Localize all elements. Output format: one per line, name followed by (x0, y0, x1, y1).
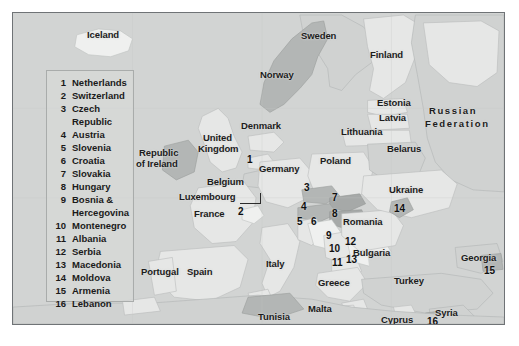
map-number-marker-14: 14 (394, 204, 405, 214)
map-number-marker-6: 6 (311, 217, 317, 227)
legend-list: 1Netherlands2Switzerland3CzechRepublic4A… (47, 76, 133, 310)
map-label-italy: Italy (266, 259, 285, 270)
map-number-marker-4: 4 (301, 202, 307, 212)
map-label-greece: Greece (318, 278, 350, 289)
legend-item: 14Moldova (47, 271, 133, 284)
map-number-marker-1: 1 (247, 155, 253, 165)
map-label-georgia: Georgia (461, 253, 496, 264)
legend-item-continuation: Hercegovina (47, 206, 133, 219)
map-label-estonia: Estonia (377, 98, 411, 109)
legend-item: 3Czech (47, 102, 133, 115)
legend-item-label: Slovakia (66, 167, 111, 180)
map-label-latvia: Latvia (379, 113, 406, 124)
legend-item-label: Moldova (66, 271, 111, 284)
map-label-portugal: Portugal (141, 267, 179, 278)
legend-item-label: Slovenia (66, 141, 111, 154)
map-label-norway: Norway (260, 70, 294, 81)
map-label-iceland: Iceland (87, 30, 119, 41)
map-number-marker-12: 12 (345, 237, 356, 247)
map-number-marker-11: 11 (332, 258, 343, 268)
map-number-marker-5: 5 (297, 217, 303, 227)
map-label-germany: Germany (259, 164, 300, 175)
legend-item-number: 5 (51, 141, 66, 154)
legend-item-number: 16 (51, 297, 66, 310)
map-number-marker-10: 10 (329, 244, 340, 254)
map-label-turkey: Turkey (394, 276, 424, 287)
map-frame: .sea { fill:#d2d4d3; } .lt { fill:#e6e7e… (12, 12, 505, 325)
legend-item-label: Armenia (66, 284, 110, 297)
legend-item-label: Austria (66, 128, 105, 141)
legend-item: 16Lebanon (47, 297, 133, 310)
legend-item-label: Netherlands (66, 76, 127, 89)
map-label-belgium: Belgium (207, 177, 244, 188)
legend-item: 5Slovenia (47, 141, 133, 154)
map-number-marker-8: 8 (332, 209, 338, 219)
legend-item-label: Serbia (66, 245, 101, 258)
legend-item-label-continuation: Hercegovina (51, 206, 129, 219)
legend-item-number: 6 (51, 154, 66, 167)
legend-item-number: 11 (51, 232, 66, 245)
map-label-romania: Romania (343, 217, 382, 228)
legend-item: 7Slovakia (47, 167, 133, 180)
map-label-finland: Finland (370, 50, 403, 61)
legend-item: 6Croatia (47, 154, 133, 167)
map-label-belarus: Belarus (387, 144, 421, 155)
luxembourg-leader-line-vertical (260, 193, 261, 204)
map-label-bulgaria: Bulgaria (353, 248, 390, 259)
legend-item-number: 13 (51, 258, 66, 271)
map-label-syria: Syria (435, 308, 458, 319)
legend-item-number: 3 (51, 102, 66, 115)
legend-item: 10Montenegro (47, 219, 133, 232)
legend-item-number: 9 (51, 193, 66, 206)
map-number-marker-15: 15 (484, 266, 495, 276)
legend-item-number: 7 (51, 167, 66, 180)
legend-item-number: 12 (51, 245, 66, 258)
legend-item-label: Bosnia & (66, 193, 113, 206)
map-figure: .sea { fill:#d2d4d3; } .lt { fill:#e6e7e… (0, 0, 519, 346)
legend-item: 2Switzerland (47, 89, 133, 102)
map-label-denmark: Denmark (241, 121, 281, 132)
map-label-ukraine: Ukraine (389, 185, 423, 196)
map-label-malta: Malta (308, 304, 332, 315)
luxembourg-leader-line-horizontal (240, 203, 261, 204)
legend-item-number: 14 (51, 271, 66, 284)
legend-item-number: 8 (51, 180, 66, 193)
map-label-france: France (194, 209, 225, 220)
map-number-marker-3: 3 (304, 183, 310, 193)
legend-item-label: Albania (66, 232, 106, 245)
map-number-marker-2: 2 (238, 207, 244, 217)
legend-item-label: Switzerland (66, 89, 125, 102)
map-number-marker-16: 16 (427, 317, 438, 325)
map-label-russian: Russian (429, 106, 477, 117)
map-label-of-ireland: of Ireland (136, 159, 178, 170)
map-label-cyprus: Cyprus (381, 315, 413, 325)
legend-item-label: Macedonia (66, 258, 121, 271)
legend-item: 4Austria (47, 128, 133, 141)
legend-item-continuation: Republic (47, 115, 133, 128)
map-label-federation: Federation (425, 119, 490, 130)
legend-item-label: Czech (66, 102, 100, 115)
legend-item: 12Serbia (47, 245, 133, 258)
legend-item-label: Hungary (66, 180, 111, 193)
legend-item-number: 1 (51, 76, 66, 89)
map-label-kingdom: Kingdom (198, 144, 238, 155)
map-label-sweden: Sweden (301, 31, 336, 42)
legend-item-number: 2 (51, 89, 66, 102)
map-label-tunisia: Tunisia (258, 312, 290, 323)
legend-item-number: 4 (51, 128, 66, 141)
map-label-united: United (203, 133, 232, 144)
legend-item-label-continuation: Republic (51, 115, 112, 128)
map-label-lithuania: Lithuania (341, 127, 382, 138)
legend-item: 15Armenia (47, 284, 133, 297)
map-label-spain: Spain (187, 267, 212, 278)
legend-item-label: Lebanon (66, 297, 112, 310)
legend-item: 9Bosnia & (47, 193, 133, 206)
map-number-marker-7: 7 (332, 193, 338, 203)
legend-item-label: Montenegro (66, 219, 126, 232)
legend-item-number: 15 (51, 284, 66, 297)
map-number-marker-9: 9 (326, 231, 332, 241)
legend-item: 1Netherlands (47, 76, 133, 89)
legend-item: 13Macedonia (47, 258, 133, 271)
legend-box: 1Netherlands2Switzerland3CzechRepublic4A… (46, 70, 134, 302)
map-label-poland: Poland (320, 156, 351, 167)
